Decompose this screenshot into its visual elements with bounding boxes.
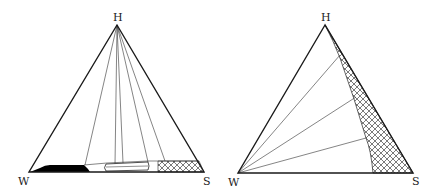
vertex-label-s: S bbox=[203, 175, 211, 188]
vertex-label-s: S bbox=[412, 175, 420, 188]
cross-hatched-region bbox=[158, 161, 204, 172]
vertex-label-w: W bbox=[18, 175, 30, 188]
tie-lines bbox=[85, 25, 165, 165]
ternary-diagrams: H W S H W S bbox=[0, 0, 438, 193]
vertex-label-h: H bbox=[321, 11, 331, 24]
black-solid-region bbox=[30, 165, 90, 172]
left-ternary-diagram: H W S bbox=[18, 11, 211, 188]
right-ternary-diagram: H W S bbox=[228, 11, 420, 189]
vertex-label-h: H bbox=[113, 11, 123, 24]
vertex-label-w: W bbox=[228, 176, 240, 189]
